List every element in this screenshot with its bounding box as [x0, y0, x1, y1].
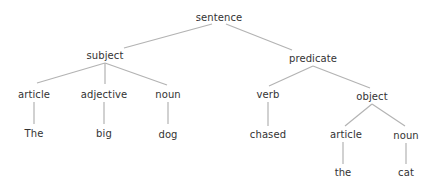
node-word-dog: dog	[158, 129, 177, 140]
node-predicate: predicate	[289, 53, 337, 64]
node-subject-noun: noun	[155, 89, 181, 100]
edge-predicate-object	[313, 66, 370, 88]
node-object-article: article	[330, 129, 362, 140]
node-subject-adjective: adjective	[81, 89, 128, 100]
node-word-cat: cat	[398, 167, 414, 178]
node-verb: verb	[257, 89, 280, 100]
node-sentence: sentence	[196, 12, 243, 23]
tree-edges	[0, 0, 438, 178]
node-word-chased: chased	[250, 129, 286, 140]
edge-sentence-predicate	[226, 24, 292, 50]
node-object: object	[356, 91, 387, 102]
node-subject: subject	[87, 50, 124, 61]
node-word-the: the	[335, 167, 352, 178]
node-subject-article: article	[18, 89, 50, 100]
edge-object-noun	[372, 104, 405, 126]
edge-subject-article	[37, 63, 105, 83]
node-word-The: The	[25, 128, 44, 139]
node-object-noun: noun	[393, 130, 419, 141]
edge-subject-noun	[105, 63, 167, 85]
node-word-big: big	[96, 128, 112, 139]
edge-object-article	[345, 104, 372, 126]
edge-predicate-verb	[269, 66, 313, 86]
edge-sentence-subject	[124, 24, 212, 48]
